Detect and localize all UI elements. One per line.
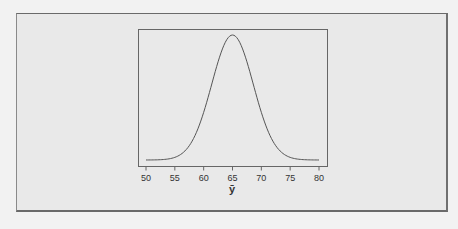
x-axis: 50556065707580 (141, 167, 324, 183)
x-tick-label: 65 (227, 173, 237, 183)
x-tick-label: 75 (285, 173, 295, 183)
x-tick-label: 80 (314, 173, 324, 183)
density-curve (146, 35, 319, 160)
x-tick-label: 50 (141, 173, 151, 183)
x-tick-label: 70 (256, 173, 266, 183)
x-axis-label: ȳ (229, 183, 236, 195)
density-chart: 50556065707580 ȳ (0, 0, 458, 229)
plot-area (139, 30, 328, 167)
x-tick-label: 60 (199, 173, 209, 183)
x-tick-label: 55 (170, 173, 180, 183)
